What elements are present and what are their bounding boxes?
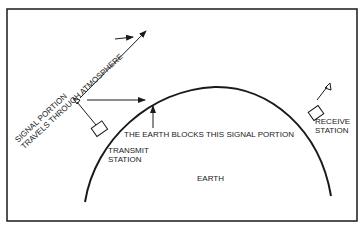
blocked-label: THE EARTH BLOCKS THIS SIGNAL PORTION xyxy=(124,130,294,139)
earth-curve xyxy=(85,87,331,202)
earth-label: EARTH xyxy=(197,174,224,183)
transmit-label-line1: TRANSMIT xyxy=(108,146,149,155)
transmit-station-icon xyxy=(73,98,108,137)
transmit-label-line2: STATION xyxy=(108,155,142,164)
signal-path-diagram: SIGNAL PORTION TRAVELS THROUGH ATMOSPHER… xyxy=(0,0,363,228)
signal-label-line2: TRAVELS THROUGH ATMOSPHERE xyxy=(19,52,124,151)
receive-label-line1: RECEIVE xyxy=(315,117,350,126)
label-pointer-arrow xyxy=(115,37,133,39)
receive-label-line2: STATION xyxy=(315,126,349,135)
receive-station-icon xyxy=(308,83,331,121)
